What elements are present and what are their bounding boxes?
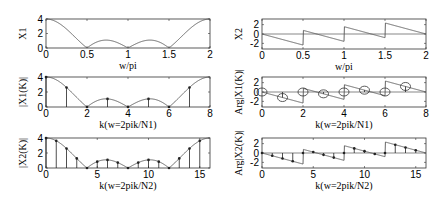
y-tick-label: 0 (37, 163, 43, 174)
y-tick-label: -2 (250, 96, 259, 107)
stem-marker (65, 147, 68, 150)
y-tick-label: 2 (253, 19, 259, 30)
plot-X1: 00.511.52024w/piX1 (17, 14, 213, 72)
stem-marker (394, 143, 397, 146)
x-tick-label: 0.5 (80, 49, 94, 60)
stem-marker (147, 159, 150, 162)
x-tick-label: 5 (94, 169, 100, 180)
x-tick-label: 1 (125, 49, 131, 60)
x-tick-label: 8 (207, 108, 213, 119)
y-axis-label: Arg|X1(K)| (233, 69, 245, 114)
stem-marker (322, 154, 325, 157)
y-tick-label: 4 (37, 133, 43, 144)
stem-marker (116, 161, 119, 164)
x-axis-label: k(w=2pik/N2) (315, 180, 372, 192)
x-tick-label: 1 (341, 50, 347, 61)
y-axis-label: X2 (233, 28, 244, 40)
y-axis-label: Arg|X2(K)| (233, 130, 245, 175)
plot-ArgX2K: 051015-202k(w=2pik/N2)Arg|X2(K)| (233, 130, 426, 192)
stem-marker (178, 157, 181, 160)
y-axis-label: |X2(K)| (17, 138, 29, 168)
x-tick-label: 0 (43, 169, 49, 180)
stem-marker (373, 153, 376, 156)
y-tick-label: 2 (37, 148, 43, 159)
y-axis-label: |X1(K)| (17, 77, 29, 107)
stem-marker (363, 150, 366, 153)
stem-marker (86, 106, 89, 109)
stem-marker (281, 157, 284, 160)
plot-ArgX1K: 02468-202k(w=2pik/N1)Arg|X1(K)| (233, 69, 429, 131)
stem-marker (188, 147, 191, 150)
plot-X2K: 051015024k(w=2pik/N2)|X2(K)| (17, 133, 210, 193)
plot-X2: 00.511.52-202w/piX2 (233, 19, 429, 72)
x-tick-label: 0 (259, 108, 265, 119)
stem-marker (157, 160, 160, 163)
y-tick-label: 0 (253, 148, 259, 159)
y-tick-label: 0 (37, 102, 43, 113)
x-tick-label: 1.5 (378, 50, 392, 61)
x-tick-label: 2 (207, 49, 213, 60)
stem-marker (198, 140, 201, 143)
x-tick-label: 0 (43, 108, 49, 119)
stem-marker (291, 160, 294, 163)
x-tick-label: 10 (143, 169, 155, 180)
dft-figure: 00.511.52024w/piX100.511.52-202w/piX2024… (0, 0, 443, 210)
x-tick-label: 2 (423, 50, 429, 61)
curve-line (46, 77, 210, 107)
axes-box (46, 77, 210, 107)
x-tick-label: 4 (125, 108, 131, 119)
curve-line (46, 138, 210, 168)
stem-marker (168, 106, 171, 109)
x-tick-label: 15 (410, 169, 422, 180)
stem-marker (414, 149, 417, 152)
y-tick-label: -2 (250, 38, 259, 49)
stem-marker (168, 167, 171, 170)
stem-marker (147, 98, 150, 101)
stem-marker (106, 159, 109, 162)
x-tick-label: 4 (341, 108, 347, 119)
stem-marker (55, 140, 58, 143)
y-tick-label: 2 (37, 87, 43, 98)
stem-marker (65, 86, 68, 89)
x-axis-label: k(w=2pik/N1) (99, 119, 156, 131)
x-tick-label: 0.5 (296, 50, 310, 61)
stem-marker (404, 146, 407, 149)
x-tick-label: 2 (84, 108, 90, 119)
x-tick-label: 6 (382, 108, 388, 119)
x-tick-label: 1.5 (162, 49, 176, 60)
y-tick-label: 0 (253, 87, 259, 98)
y-tick-label: 2 (37, 28, 43, 39)
axes-box (46, 138, 210, 168)
stem-marker (384, 152, 387, 155)
x-axis-label: k(w=2pik/N1) (315, 119, 372, 131)
stem-marker (312, 151, 315, 154)
stem-marker (45, 76, 48, 79)
plot-X1K: 02468024k(w=2pik/N1)|X1(K)| (17, 72, 213, 132)
curve-line (46, 19, 210, 48)
stem-marker (45, 137, 48, 140)
y-tick-label: 2 (253, 77, 259, 88)
x-tick-label: 2 (300, 108, 306, 119)
stem-marker (332, 156, 335, 159)
x-tick-label: 5 (310, 169, 316, 180)
y-axis-label: X1 (17, 27, 28, 39)
stem-marker (353, 147, 356, 150)
y-tick-label: 0 (37, 43, 43, 54)
y-tick-label: 2 (253, 138, 259, 149)
x-tick-label: 8 (423, 108, 429, 119)
stem-marker (75, 157, 78, 160)
stem-marker (188, 86, 191, 89)
stem-marker (137, 161, 140, 164)
x-tick-label: 0 (259, 169, 265, 180)
stem-marker (127, 106, 130, 109)
x-tick-label: 0 (259, 50, 265, 61)
x-axis-label: k(w=2pik/N2) (99, 180, 156, 192)
stem-marker (271, 154, 274, 157)
stem-marker (343, 152, 346, 155)
x-axis-label: w/pi (335, 61, 353, 72)
x-tick-label: 6 (166, 108, 172, 119)
x-tick-label: 0 (43, 49, 49, 60)
y-tick-label: 0 (253, 29, 259, 40)
axes-box (46, 19, 210, 48)
stem-marker (261, 152, 264, 155)
